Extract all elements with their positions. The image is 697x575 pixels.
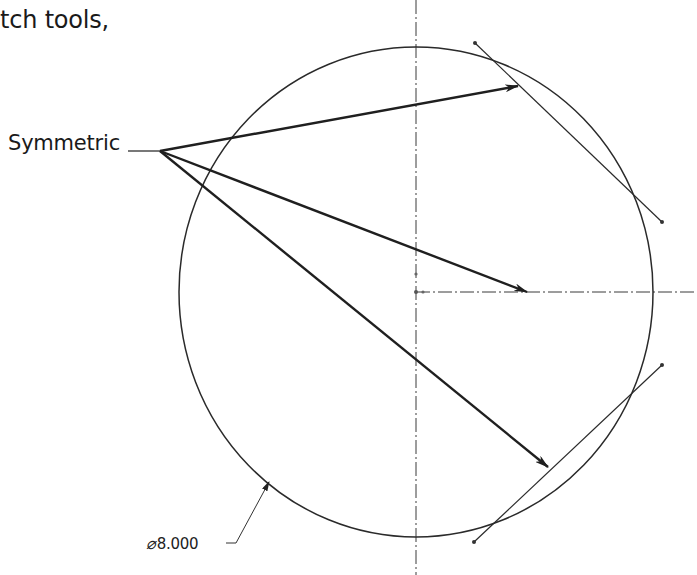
- lower-line-endpoint[interactable]: [472, 540, 476, 544]
- symmetric-arrow-upper: [160, 86, 518, 151]
- diameter-dimension-label[interactable]: ⌀8.000: [146, 534, 198, 553]
- diameter-symbol-icon: ⌀: [146, 534, 156, 553]
- centerline-endpoint-marker[interactable]: [414, 272, 417, 275]
- diameter-value: 8.000: [157, 535, 198, 553]
- sketch-canvas: [0, 0, 697, 575]
- upper-construction-line[interactable]: [475, 43, 662, 222]
- intro-text-fragment: tch tools,: [0, 6, 109, 34]
- upper-line-endpoint[interactable]: [660, 220, 664, 224]
- center-point[interactable]: [414, 290, 418, 294]
- centerline-endpoint-marker[interactable]: [421, 290, 424, 293]
- lower-line-endpoint[interactable]: [660, 363, 664, 367]
- symmetric-constraint-label: Symmetric: [8, 131, 120, 155]
- symmetric-arrow-lower: [160, 151, 548, 467]
- symmetric-arrow-center: [160, 151, 527, 292]
- diameter-dimension-leader[interactable]: [226, 482, 269, 543]
- upper-line-endpoint[interactable]: [473, 41, 477, 45]
- lower-construction-line[interactable]: [474, 365, 662, 542]
